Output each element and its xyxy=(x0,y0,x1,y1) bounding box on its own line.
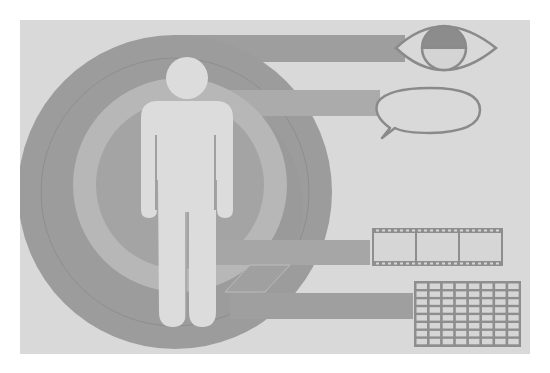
grid-cell xyxy=(443,315,454,321)
grid-cell xyxy=(443,284,454,290)
grid-cell xyxy=(508,291,519,297)
grid-cell xyxy=(495,291,506,297)
grid-cell xyxy=(417,284,428,290)
grid-cell xyxy=(508,323,519,329)
illustration-canvas xyxy=(0,0,550,373)
grid-cell xyxy=(482,291,493,297)
grid-cell xyxy=(443,291,454,297)
grid-cell xyxy=(430,315,441,321)
grid-cell xyxy=(495,307,506,313)
grid-cell xyxy=(508,339,519,345)
grid-cell xyxy=(417,315,428,321)
grid-cell xyxy=(417,339,428,345)
table-grid-icon xyxy=(414,281,521,347)
grid-cell xyxy=(482,331,493,337)
grid-cell xyxy=(469,307,480,313)
grid-cell xyxy=(482,315,493,321)
grid-cell xyxy=(456,291,467,297)
grid-cell xyxy=(495,284,506,290)
grid-cell xyxy=(417,299,428,305)
grid-cell xyxy=(430,331,441,337)
grid-cell xyxy=(456,284,467,290)
grid-cell xyxy=(417,291,428,297)
grid-cell xyxy=(417,323,428,329)
person-head xyxy=(166,57,208,99)
grid-cell xyxy=(482,307,493,313)
grid-cell xyxy=(417,307,428,313)
grid-cell xyxy=(430,291,441,297)
grid-cell xyxy=(443,331,454,337)
grid-cell xyxy=(508,307,519,313)
grid-cell xyxy=(456,315,467,321)
grid-cell xyxy=(469,331,480,337)
grid-cell xyxy=(495,339,506,345)
grid-cell xyxy=(430,339,441,345)
grid-cell xyxy=(508,299,519,305)
grid-cell xyxy=(417,331,428,337)
grid-cell xyxy=(430,284,441,290)
grid-cell xyxy=(495,323,506,329)
grid-cell xyxy=(430,299,441,305)
grid-cell xyxy=(469,299,480,305)
grid-cell xyxy=(469,323,480,329)
grid-cell xyxy=(508,315,519,321)
bar-to-film xyxy=(210,240,370,265)
grid-cell xyxy=(495,315,506,321)
grid-cell xyxy=(469,291,480,297)
grid-cell xyxy=(430,307,441,313)
grid-cell xyxy=(508,284,519,290)
grid-cell xyxy=(495,331,506,337)
grid-cell xyxy=(482,299,493,305)
grid-cell xyxy=(469,339,480,345)
grid-cell xyxy=(456,323,467,329)
grid-cell xyxy=(456,307,467,313)
grid-cell xyxy=(443,323,454,329)
grid-cell xyxy=(495,299,506,305)
grid-cell xyxy=(443,299,454,305)
grid-cell xyxy=(456,339,467,345)
illustration xyxy=(0,0,550,373)
grid-cell xyxy=(508,331,519,337)
grid-cell xyxy=(456,299,467,305)
grid-cell xyxy=(482,323,493,329)
grid-cell xyxy=(456,331,467,337)
grid-cell xyxy=(469,315,480,321)
grid-cell xyxy=(430,323,441,329)
grid-cell xyxy=(469,284,480,290)
grid-cell xyxy=(482,339,493,345)
grid-cell xyxy=(443,339,454,345)
bar-to-grid xyxy=(230,293,413,319)
film-strip-icon xyxy=(372,228,503,266)
grid-cell xyxy=(482,284,493,290)
grid-cell xyxy=(443,307,454,313)
